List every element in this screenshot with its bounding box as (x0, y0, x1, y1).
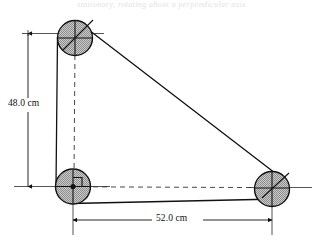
physics-figure: stationary, rotating about a perpendicul… (0, 0, 323, 246)
triangle-side-left (56, 38, 58, 187)
triangle-sides (56, 32, 288, 204)
disk-top-left (58, 20, 94, 56)
triangle-side-bottom (71, 199, 278, 204)
origin-dot (70, 184, 75, 189)
dashed-horizontal-leg (84, 187, 262, 188)
dimension-label-horizontal: 52.0 cm (154, 213, 189, 223)
triangle-side-hypotenuse (92, 32, 289, 183)
dashed-vertical-leg (74, 46, 75, 179)
figure-canvas (0, 0, 323, 246)
dimension-label-vertical: 48.0 cm (8, 98, 39, 108)
disk-bottom-left (56, 169, 91, 204)
construction-lines (74, 46, 262, 188)
disk-bottom-right (255, 172, 291, 207)
